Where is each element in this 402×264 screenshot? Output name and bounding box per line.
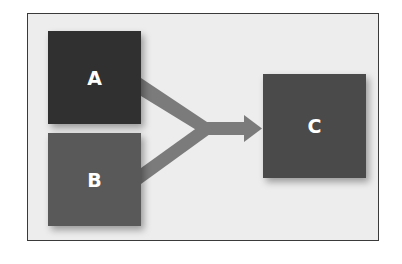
node-c: C bbox=[263, 74, 366, 178]
node-a: A bbox=[48, 31, 141, 124]
node-b: B bbox=[48, 133, 141, 226]
diagram-canvas: A B C bbox=[0, 0, 402, 264]
node-c-label: C bbox=[308, 115, 322, 137]
node-a-label: A bbox=[87, 67, 102, 89]
node-b-label: B bbox=[87, 169, 101, 191]
